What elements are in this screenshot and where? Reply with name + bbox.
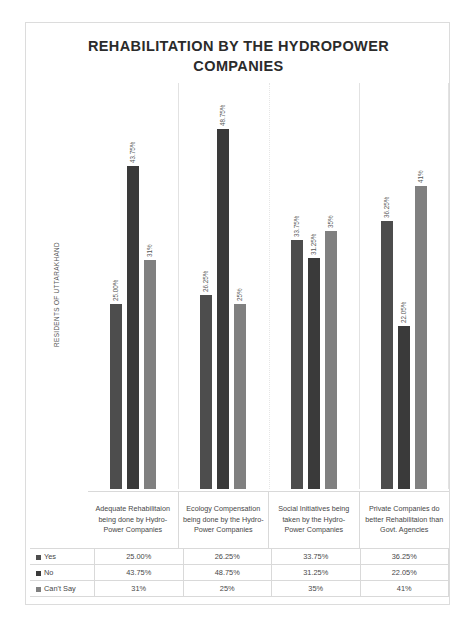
legend-label: Can't Say xyxy=(44,584,76,593)
bar-value-label: 31.25% xyxy=(310,234,317,255)
bar-group: 33.75%31.25%35% xyxy=(269,83,359,489)
chart-title: REHABILITATION BY THE HYDROPOWER COMPANI… xyxy=(56,37,421,76)
legend-cell: No xyxy=(30,565,95,581)
bar-value-label: 41% xyxy=(417,171,424,184)
legend-cell: Yes xyxy=(30,549,95,565)
category-label-1: Adequate Rehabilitaion being done by Hyd… xyxy=(88,492,179,548)
bar-value-label: 25% xyxy=(236,289,243,302)
table-cell: 25.00% xyxy=(95,549,184,565)
bar-value-label: 36.25% xyxy=(383,197,390,218)
table-row: Can't Say31%25%35%41% xyxy=(30,581,449,597)
data-table: Yes25.00%26.25%33.75%36.25%No43.75%48.75… xyxy=(30,548,449,597)
legend-swatch-icon xyxy=(36,555,41,560)
bar-value-label: 43.75% xyxy=(129,142,136,163)
plot-area: 25.00%43.75%31%26.25%48.75%25%33.75%31.2… xyxy=(88,83,449,489)
data-table-body: Yes25.00%26.25%33.75%36.25%No43.75%48.75… xyxy=(30,549,449,597)
table-row: Yes25.00%26.25%33.75%36.25% xyxy=(30,549,449,565)
bar-rect xyxy=(217,129,229,489)
bar-group: 26.25%48.75%25% xyxy=(178,83,268,489)
table-cell: 22.05% xyxy=(360,565,449,581)
category-label-3: Social Initiatives being taken by the Hy… xyxy=(269,492,360,548)
bar-rect xyxy=(110,304,122,489)
bar-group: 36.25%22.05%41% xyxy=(359,83,449,489)
table-cell: 33.75% xyxy=(272,549,361,565)
bar-rect xyxy=(308,258,320,489)
bar-rect xyxy=(381,221,393,489)
bar-rect xyxy=(144,260,156,489)
y-axis-title: RESIDENTS OF UTTARAKHAND xyxy=(53,215,60,375)
bar-rect xyxy=(234,304,246,489)
bar-value-label: 25.00% xyxy=(112,280,119,301)
table-cell: 48.75% xyxy=(183,565,272,581)
table-cell: 31% xyxy=(95,581,184,597)
table-cell: 35% xyxy=(272,581,361,597)
table-cell: 43.75% xyxy=(95,565,184,581)
table-cell: 36.25% xyxy=(360,549,449,565)
legend-swatch-icon xyxy=(36,587,41,592)
bar-value-label: 33.75% xyxy=(293,216,300,237)
legend-cell: Can't Say xyxy=(30,581,95,597)
bar-value-label: 48.75% xyxy=(219,105,226,126)
legend-swatch-icon xyxy=(36,571,41,576)
table-row: No43.75%48.75%31.25%22.05% xyxy=(30,565,449,581)
bar-rect xyxy=(398,326,410,489)
bar-value-label: 31% xyxy=(146,245,153,258)
category-label-4: Private Companies do better Rehabilitaio… xyxy=(360,492,450,548)
bar-rect xyxy=(200,295,212,489)
bar-value-label: 22.05% xyxy=(400,302,407,323)
bar-rect xyxy=(325,231,337,489)
table-cell: 25% xyxy=(183,581,272,597)
table-cell: 26.25% xyxy=(183,549,272,565)
legend-label: Yes xyxy=(44,552,56,561)
bar-value-label: 35% xyxy=(327,215,334,228)
table-cell: 41% xyxy=(360,581,449,597)
bar-value-label: 26.25% xyxy=(202,271,209,292)
legend-label: No xyxy=(44,568,53,577)
category-label-row: Adequate Rehabilitaion being done by Hyd… xyxy=(88,491,449,548)
bar-group: 25.00%43.75%31% xyxy=(88,83,178,489)
bar-rect xyxy=(291,240,303,489)
bar-rect xyxy=(127,166,139,489)
category-label-2: Ecology Compensation being done by the H… xyxy=(179,492,270,548)
bar-rect xyxy=(415,186,427,489)
table-cell: 31.25% xyxy=(272,565,361,581)
chart-card: REHABILITATION BY THE HYDROPOWER COMPANI… xyxy=(25,22,450,605)
